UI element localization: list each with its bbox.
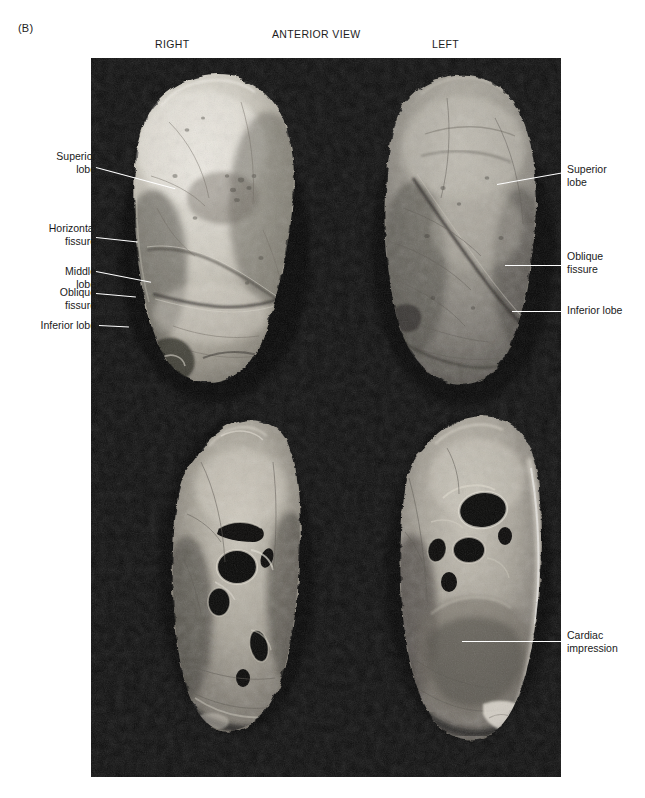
leader-inferior-lobe-left: [512, 311, 567, 312]
header-view-title: ANTERIOR VIEW: [272, 28, 361, 40]
photographic-plate: [91, 58, 561, 777]
specimen-photographs: [91, 58, 561, 777]
label-inferior-lobe-left: Inferior lobe: [567, 304, 645, 317]
label-oblique-fissure-right: Oblique fissure: [10, 286, 96, 311]
label-oblique-fissure-left: Oblique fissure: [567, 250, 643, 275]
label-superior-lobe-left: Superior lobe: [567, 163, 643, 188]
figure-page: (B) RIGHT ANTERIOR VIEW LEFT: [0, 0, 645, 798]
panel-letter: (B): [18, 22, 33, 34]
header-right-side: RIGHT: [155, 38, 189, 50]
label-superior-lobe-right: Superior lobe: [10, 150, 96, 175]
film-grain-overlay: [91, 58, 561, 777]
header-left-side: LEFT: [432, 38, 459, 50]
leader-oblique-fissure-left: [505, 265, 567, 266]
label-cardiac-impression: Cardiac impression: [567, 629, 645, 654]
leader-cardiac-impression: [462, 641, 567, 642]
label-horizontal-fissure: Horizontal fissure: [10, 222, 96, 247]
label-inferior-lobe-right: Inferior lobe: [6, 319, 96, 332]
